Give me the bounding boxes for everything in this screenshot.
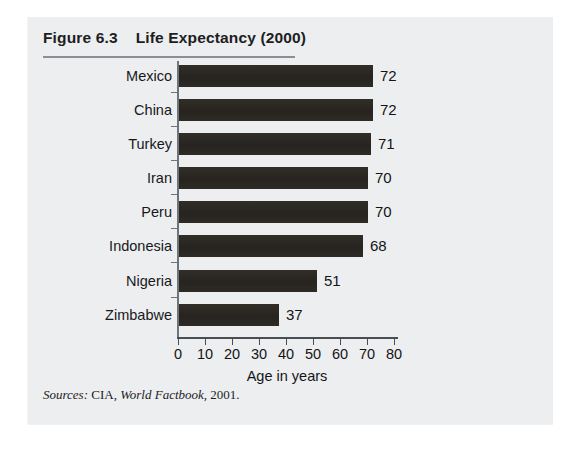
figure-panel: Figure 6.3Life Expectancy (2000) Mexico …: [27, 17, 553, 425]
x-axis-tick: [205, 339, 206, 345]
x-axis-tick: [340, 339, 341, 345]
y-axis-tick: [171, 228, 179, 229]
x-axis-tick: [394, 339, 395, 345]
category-label: Turkey: [32, 133, 172, 155]
category-label: Iran: [32, 167, 172, 189]
bar-value-label: 51: [324, 270, 341, 292]
y-axis-tick: [171, 92, 179, 93]
figure-title-text: Life Expectancy (2000): [136, 29, 306, 46]
category-label: Mexico: [32, 65, 172, 87]
sources-prefix: Sources:: [43, 387, 88, 402]
x-axis-line: [177, 337, 398, 339]
bar-value-label: 70: [375, 167, 392, 189]
category-label: Peru: [32, 201, 172, 223]
bar-nigeria: [179, 270, 317, 292]
y-axis-tick: [171, 160, 179, 161]
bar-zimbabwe: [179, 304, 279, 326]
category-label-row: Iran: [32, 167, 172, 189]
bar-iran: [179, 167, 368, 189]
bar-value-label: 70: [375, 201, 392, 223]
bar-turkey: [179, 133, 371, 155]
x-axis-tick: [313, 339, 314, 345]
bar-peru: [179, 201, 368, 223]
y-axis-tick: [171, 126, 179, 127]
category-label: Nigeria: [32, 270, 172, 292]
category-label-row: Zimbabwe: [32, 304, 172, 326]
y-axis-tick: [171, 262, 179, 263]
sources-publication: World Factbook: [120, 387, 204, 402]
y-axis-tick: [171, 194, 179, 195]
x-axis-tick: [286, 339, 287, 345]
x-axis-tick: [367, 339, 368, 345]
bar-mexico: [179, 65, 373, 87]
bar-value-label: 71: [378, 133, 395, 155]
category-label-row: Turkey: [32, 133, 172, 155]
category-label-row: Nigeria: [32, 270, 172, 292]
figure-sources: Sources: CIA, World Factbook, 2001.: [43, 387, 240, 403]
title-divider: [43, 56, 295, 58]
category-label-row: Peru: [32, 201, 172, 223]
figure-title: Figure 6.3Life Expectancy (2000): [43, 29, 306, 47]
x-axis-tick: [259, 339, 260, 345]
sources-organization: CIA,: [88, 387, 120, 402]
category-label-row: China: [32, 99, 172, 121]
category-label-row: Indonesia: [32, 235, 172, 257]
bar-value-label: 68: [370, 235, 387, 257]
sources-year: , 2001.: [204, 387, 240, 402]
figure-root: Figure 6.3Life Expectancy (2000) Mexico …: [0, 0, 580, 450]
bar-value-label: 37: [286, 304, 303, 326]
bar-value-label: 72: [380, 99, 397, 121]
x-axis-tick: [232, 339, 233, 345]
category-label-row: Mexico: [32, 65, 172, 87]
x-axis-tick-label: 80: [374, 346, 414, 362]
x-axis-title: Age in years: [147, 368, 427, 384]
y-axis-tick: [171, 297, 179, 298]
x-axis-tick: [178, 339, 179, 345]
figure-number: Figure 6.3: [43, 29, 118, 46]
chart-plot-area: Mexico China Turkey Iran Peru Indonesia …: [27, 61, 553, 371]
category-label: Indonesia: [32, 235, 172, 257]
bar-value-label: 72: [380, 65, 397, 87]
bar-china: [179, 99, 373, 121]
category-label: China: [32, 99, 172, 121]
category-label: Zimbabwe: [32, 304, 172, 326]
bar-indonesia: [179, 235, 363, 257]
